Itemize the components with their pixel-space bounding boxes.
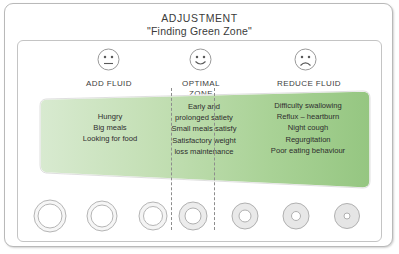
list-item: Reflux – heartburn [254,111,362,122]
faces-row [18,47,383,77]
outer-frame: ADJUSTMENT "Finding Green Zone" [4,3,393,247]
column-label-add-fluid: ADD FLUID [68,79,150,89]
band-ring-2 [82,196,122,236]
title-main: ADJUSTMENT [5,12,394,25]
column-items-reduce-fluid: Difficulty swallowing Reflux – heartburn… [254,100,362,156]
column-label-optimal-line1: OPTIMAL [160,79,242,89]
list-item: Difficulty swallowing [254,100,362,111]
smiling-face-icon [188,47,213,72]
inner-panel: ADD FLUID OPTIMAL ZONE REDUCE FLUID [17,40,382,242]
band-tightness-scale [18,196,383,242]
list-item: Big meals [64,122,156,133]
band-ring-1 [30,196,70,236]
page-title: ADJUSTMENT "Finding Green Zone" [5,12,394,38]
column-label-optimal-line2: ZONE [160,89,242,99]
list-item: Regurgitation [254,134,362,145]
column-label-reduce-fluid: REDUCE FLUID [263,79,355,89]
band-ring-4 [173,196,213,236]
band-ring-3 [133,196,173,236]
band-ring-6 [276,196,316,236]
adjustment-diagram: ADJUSTMENT "Finding Green Zone" [0,0,399,254]
column-label-optimal-zone: OPTIMAL ZONE [160,79,242,99]
neutral-face-icon [96,47,121,72]
title-subtitle: "Finding Green Zone" [5,25,394,38]
band-ring-5 [225,196,265,236]
list-item: Poor eating behaviour [254,145,362,156]
list-item: Night cough [254,122,362,133]
band-ring-7 [327,196,367,236]
frowning-face-icon [293,47,318,72]
list-item: Hungry [64,111,156,122]
list-item: Looking for food [64,133,156,144]
column-items-add-fluid: Hungry Big meals Looking for food [64,111,156,145]
